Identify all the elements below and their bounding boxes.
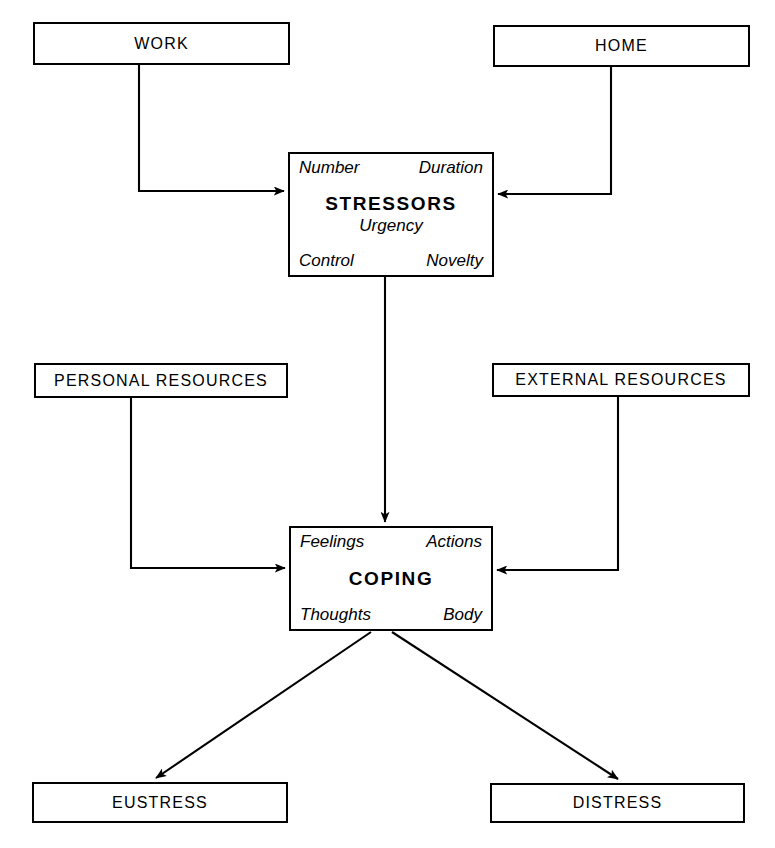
stressors-attribute-duration: Duration [419,159,483,177]
edge-external-resources-to-coping [497,397,618,570]
stressors-attribute-urgency-row: Urgency [299,217,483,235]
stressors-title-row: STRESSORS [299,194,483,213]
node-eustress[interactable]: EUSTRESS [32,782,288,823]
coping-attribute-feelings: Feelings [300,533,364,551]
stressors-attribute-control: Control [299,252,354,270]
edge-coping-to-eustress [156,632,371,778]
node-coping[interactable]: Feelings Actions COPING Thoughts Body [289,526,493,631]
node-personal-resources-label: PERSONAL RESOURCES [54,373,268,389]
node-external-resources[interactable]: EXTERNAL RESOURCES [492,363,750,397]
node-stressors-label: STRESSORS [325,194,457,213]
node-work[interactable]: WORK [33,22,290,65]
stressors-core: STRESSORS Urgency [299,194,483,235]
node-distress[interactable]: DISTRESS [490,783,745,823]
coping-attribute-thoughts: Thoughts [300,606,371,624]
stressors-attribute-number: Number [299,159,359,177]
node-home[interactable]: HOME [493,25,750,67]
stressors-attribute-novelty: Novelty [426,252,483,270]
coping-attribute-actions: Actions [426,533,482,551]
node-coping-label: COPING [349,569,434,588]
node-eustress-label: EUSTRESS [112,795,208,811]
stressors-attribute-urgency: Urgency [359,217,422,235]
coping-attribute-body: Body [443,606,482,624]
coping-attributes-top: Feelings Actions [300,533,482,551]
coping-attributes-bottom: Thoughts Body [300,606,482,624]
edge-personal-resources-to-coping [131,398,285,568]
node-distress-label: DISTRESS [573,795,663,811]
coping-core: COPING [300,551,482,606]
stressors-attributes-bottom: Control Novelty [299,252,483,270]
stressors-attributes-top: Number Duration [299,159,483,177]
connector-layer [0,0,775,848]
edge-home-to-stressors [498,67,611,194]
edge-coping-to-distress [392,632,618,779]
node-home-label: HOME [595,38,648,54]
node-stressors[interactable]: Number Duration STRESSORS Urgency Contro… [288,152,494,277]
node-personal-resources[interactable]: PERSONAL RESOURCES [34,363,288,398]
stress-model-diagram: WORK HOME Number Duration STRESSORS Urge… [0,0,775,848]
edge-work-to-stressors [139,65,284,191]
node-external-resources-label: EXTERNAL RESOURCES [515,372,726,388]
node-work-label: WORK [134,36,189,52]
